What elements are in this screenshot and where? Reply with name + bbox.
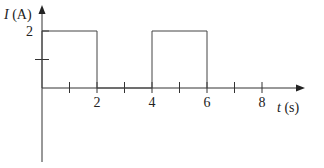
x-tick-label: 6 xyxy=(204,95,211,110)
y-axis-arrow-icon xyxy=(39,5,46,14)
y-axis-label: I (A) xyxy=(3,7,32,23)
y-tick-label: 2 xyxy=(26,24,33,39)
x-axis-arrow-icon xyxy=(296,85,305,92)
chart: 2468 2 I (A) t (s) xyxy=(0,0,324,168)
x-tick-label: 4 xyxy=(149,95,156,110)
x-axis-label: t (s) xyxy=(277,100,300,116)
current-waveform xyxy=(42,31,207,88)
x-tick-label: 8 xyxy=(259,95,266,110)
x-tick-label: 2 xyxy=(94,95,101,110)
